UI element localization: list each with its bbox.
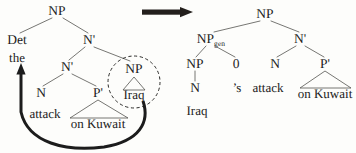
right-leaf-poss: ’s <box>233 81 242 94</box>
right-node-np-gen: NPgen <box>197 32 225 46</box>
right-tree-branches <box>195 21 324 81</box>
right-node-pbar: P' <box>320 57 330 71</box>
right-node-zero: 0 <box>233 57 240 71</box>
left-leaf-iraq: Iraq <box>124 88 145 101</box>
left-tree-branches <box>20 18 130 86</box>
left-leaf-the: the <box>9 51 25 64</box>
right-node-np-gen-subscript: gen <box>214 39 225 48</box>
left-node-np-root: NP <box>48 4 65 18</box>
right-leaf-iraq: Iraq <box>187 104 208 117</box>
left-node-np-circled: NP <box>125 62 142 76</box>
left-node-nbar-2: N' <box>61 60 73 74</box>
left-node-nbar-1: N' <box>83 33 95 47</box>
left-node-n: N <box>36 86 46 100</box>
left-leaf-on-kuwait: on Kuwait <box>71 117 126 130</box>
left-leaf-attack: attack <box>29 107 60 120</box>
tree-lines-layer <box>0 0 356 153</box>
right-node-n-leaf: N <box>190 81 200 95</box>
right-node-n-head: N <box>270 57 280 71</box>
left-node-det: Det <box>7 33 27 47</box>
right-node-nbar: N' <box>294 32 306 46</box>
right-leaf-attack: attack <box>252 81 283 94</box>
right-node-np-inner: NP <box>186 57 203 71</box>
right-node-np-root: NP <box>256 7 273 21</box>
right-node-np-gen-label: NP <box>197 31 214 46</box>
left-node-pbar: P' <box>93 86 103 100</box>
right-leaf-on-kuwait: on Kuwait <box>298 87 353 100</box>
transformation-arrow <box>142 7 193 17</box>
figure-canvas: NP Det N' N' NP N P' the Iraq attack on … <box>0 0 356 153</box>
